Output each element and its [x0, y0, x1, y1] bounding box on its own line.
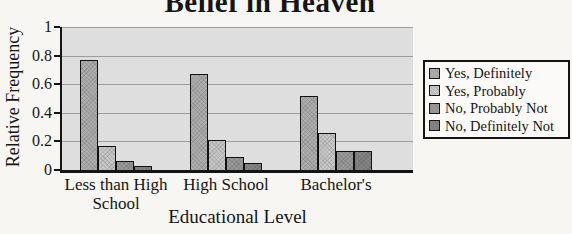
y-tick-label: 0.8	[14, 47, 52, 65]
bar-yes-definitely-1	[80, 60, 98, 170]
legend-item: No, Definitely Not	[429, 119, 565, 134]
y-tick-label: 0.4	[14, 104, 52, 122]
y-axis-line	[60, 27, 62, 171]
bar-no-definitely-not-3	[354, 151, 372, 170]
legend-item: Yes, Probably	[429, 84, 565, 99]
belief-in-heaven-chart: Belief in Heaven Relative Frequency 00.2…	[0, 0, 572, 234]
x-tick-label: Bachelor's	[271, 175, 401, 194]
y-tick-label: 1	[14, 18, 52, 36]
x-axis-line	[60, 170, 413, 173]
y-tick-mark	[54, 112, 60, 114]
legend-label: Yes, Definitely	[445, 66, 532, 81]
y-tick-mark	[54, 26, 60, 28]
legend-swatch	[429, 85, 440, 96]
legend-label: No, Probably Not	[445, 101, 548, 116]
bar-yes-definitely-2	[190, 74, 208, 170]
legend-swatch	[429, 103, 440, 114]
legend: Yes, DefinitelyYes, ProbablyNo, Probably…	[423, 60, 570, 139]
y-tick-label: 0.2	[14, 132, 52, 150]
y-tick-mark	[54, 140, 60, 142]
x-axis-title: Educational Level	[62, 206, 413, 228]
bar-yes-probably-3	[318, 133, 336, 170]
gridline	[62, 84, 413, 85]
legend-item: Yes, Definitely	[429, 66, 565, 81]
y-tick-label: 0.6	[14, 75, 52, 93]
bar-yes-probably-2	[208, 140, 226, 170]
chart-title: Belief in Heaven	[30, 0, 510, 19]
bar-no-probably-not-2	[226, 157, 244, 170]
gridline	[62, 27, 413, 28]
legend-swatch	[429, 68, 440, 79]
gridline	[62, 113, 413, 114]
legend-label: No, Definitely Not	[445, 119, 554, 134]
gridline	[62, 56, 413, 57]
y-tick-mark	[54, 169, 60, 171]
legend-label: Yes, Probably	[445, 84, 526, 99]
y-tick-mark	[54, 55, 60, 57]
bar-no-probably-not-1	[116, 161, 134, 170]
bar-yes-definitely-3	[300, 96, 318, 170]
bar-no-definitely-not-2	[244, 163, 262, 170]
legend-item: No, Probably Not	[429, 101, 565, 116]
y-tick-mark	[54, 83, 60, 85]
bar-yes-probably-1	[98, 146, 116, 170]
gridline	[62, 141, 413, 142]
plot-area	[62, 27, 413, 170]
y-tick-label: 0	[14, 161, 52, 179]
legend-swatch	[429, 120, 440, 131]
bar-no-probably-not-3	[336, 151, 354, 170]
